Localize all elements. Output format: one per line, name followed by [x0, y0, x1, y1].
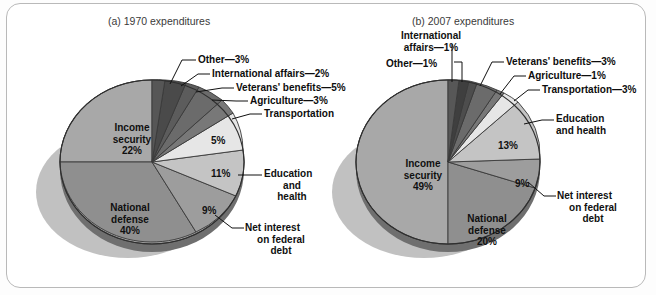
callout-education-health-line1: Education	[264, 168, 312, 179]
value-net-interest-2007: 9%	[515, 178, 529, 189]
label-income-security-value: 22%	[122, 145, 142, 156]
value-education-health-2007: 13%	[498, 140, 518, 151]
callout-veterans-benefits-2007: Veterans' benefits—3%	[506, 56, 616, 68]
callout-intl-affairs-line1: International	[401, 30, 461, 41]
callout-net-interest-2007-line2: on federal	[557, 202, 629, 214]
callout-net-interest-2007: Net interest on federal debt	[557, 190, 629, 225]
callout-agriculture-1970: Agriculture—3%	[250, 95, 328, 107]
label-national-defense-line1: National	[110, 202, 149, 213]
label-national-defense-2007: National defense 20%	[450, 213, 524, 248]
label-national-defense-1970: National defense 40%	[93, 202, 167, 237]
callout-agriculture-2007: Agriculture—1%	[528, 70, 606, 82]
callout-education-health-line3: health	[264, 191, 320, 203]
panel-2007: (b) 2007 expenditures	[328, 0, 656, 295]
callout-other-2007: Other—1%	[386, 58, 437, 70]
panel-1970: (a) 1970 expenditures	[0, 0, 328, 295]
label-income-security-2007-line2: security	[404, 170, 442, 181]
callout-net-interest-2007-line1: Net interest	[557, 190, 612, 201]
callout-education-health-1970: Education and health	[264, 168, 320, 203]
figure-container: (a) 1970 expenditures	[0, 0, 656, 295]
label-national-defense-2007-line2: defense	[468, 225, 506, 236]
label-national-defense-2007-value: 20%	[477, 236, 497, 247]
label-income-security-2007: Income security 49%	[386, 158, 460, 193]
value-net-interest-1970: 9%	[202, 205, 216, 216]
callout-education-health-line2: and	[264, 180, 320, 192]
label-income-security-line1: Income	[114, 122, 149, 133]
callout-edu-health-2007-line1: Education	[556, 113, 604, 124]
callout-transportation-1970: Transportation	[264, 108, 334, 120]
label-national-defense-line2: defense	[111, 214, 149, 225]
callout-education-health-2007: Education and health	[556, 113, 628, 136]
label-national-defense-2007-line1: National	[467, 213, 506, 224]
callout-international-affairs-2007: International affairs—1%	[388, 30, 474, 53]
label-income-security-1970: Income security 22%	[95, 122, 169, 157]
label-income-security-line2: security	[113, 134, 151, 145]
value-education-health-1970: 11%	[211, 168, 230, 179]
callout-edu-health-2007-line2: and health	[556, 125, 606, 136]
label-income-security-2007-value: 49%	[413, 181, 433, 192]
value-transportation-1970: 5%	[211, 135, 225, 146]
callout-intl-affairs-line2: affairs—1%	[404, 42, 458, 53]
callout-net-interest-1970: Net interest on federal debt	[245, 222, 317, 257]
callout-international-affairs-1970: International affairs—2%	[212, 68, 329, 80]
callout-net-interest-line1: Net interest	[245, 222, 300, 233]
callout-other-1970: Other—3%	[198, 54, 249, 66]
callout-transportation-2007: Transportation—3%	[542, 84, 636, 96]
callout-net-interest-2007-line3: debt	[557, 213, 629, 225]
label-national-defense-value: 40%	[120, 225, 140, 236]
label-income-security-2007-line1: Income	[405, 158, 440, 169]
callout-net-interest-line2: on federal	[245, 234, 317, 246]
callout-net-interest-line3: debt	[245, 245, 317, 257]
pie-chart-2007-graphic	[328, 0, 656, 295]
